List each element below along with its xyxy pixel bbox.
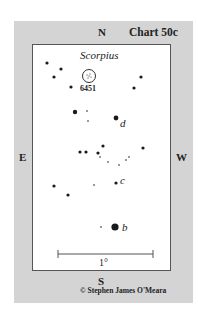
star-icon bbox=[78, 150, 81, 153]
star-icon bbox=[139, 75, 142, 78]
star-icon bbox=[118, 164, 120, 166]
star-icon bbox=[125, 159, 127, 161]
star-icon bbox=[93, 184, 95, 186]
star-icon bbox=[52, 184, 55, 187]
star-icon bbox=[73, 110, 77, 114]
star-icon bbox=[66, 193, 69, 196]
star-icon bbox=[141, 146, 144, 149]
star-designation-label: d bbox=[120, 117, 126, 129]
star-icon bbox=[96, 151, 99, 154]
star-chart: dcb bbox=[0, 0, 198, 321]
star-icon bbox=[101, 144, 104, 147]
star-icon bbox=[107, 161, 109, 163]
star-icon bbox=[87, 120, 89, 122]
star-icon bbox=[114, 181, 117, 184]
star-icon bbox=[100, 226, 102, 228]
star-icon bbox=[132, 86, 135, 89]
star-designation-label: c bbox=[120, 174, 125, 186]
star-icon bbox=[86, 110, 88, 112]
star-icon bbox=[84, 150, 87, 153]
star-icon bbox=[114, 116, 119, 121]
star-icon bbox=[59, 67, 62, 70]
star-icon bbox=[52, 75, 55, 78]
star-icon bbox=[128, 156, 130, 158]
star-designation-label: b bbox=[122, 221, 128, 233]
star-icon bbox=[45, 61, 48, 64]
star-icon bbox=[99, 156, 101, 158]
star-icon bbox=[111, 223, 118, 230]
star-icon bbox=[69, 85, 72, 88]
